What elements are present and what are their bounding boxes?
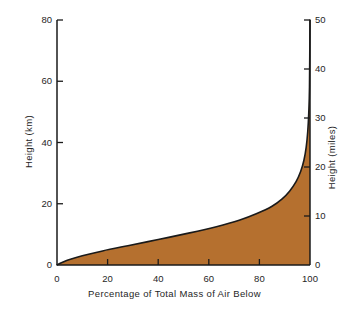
y-right-tick-label: 40	[315, 63, 341, 74]
air-mass-area-fill	[57, 20, 310, 265]
chart-plot-area	[0, 0, 349, 312]
y-left-tick-label: 60	[26, 75, 52, 86]
y-left-tick-label: 20	[26, 198, 52, 209]
x-tick-label: 80	[244, 273, 274, 284]
x-tick-label: 60	[194, 273, 224, 284]
x-tick-label: 40	[143, 273, 173, 284]
x-tick-label: 0	[42, 273, 72, 284]
y-axis-right-title: Height (miles)	[326, 123, 337, 193]
x-tick-label: 100	[295, 273, 325, 284]
y-left-tick-label: 0	[26, 259, 52, 270]
y-axis-left-title: Height (km)	[23, 112, 34, 172]
y-right-tick-label: 30	[315, 112, 341, 123]
y-left-tick-label: 80	[26, 14, 52, 25]
y-right-tick-label: 50	[315, 14, 341, 25]
y-right-tick-label: 0	[315, 259, 341, 270]
y-axis-left-ticks	[57, 20, 63, 204]
chart-figure: 020406080 01020304050 020406080100 Perce…	[0, 0, 349, 312]
x-axis-title: Percentage of Total Mass of Air Below	[0, 288, 349, 299]
x-tick-label: 20	[93, 273, 123, 284]
y-right-tick-label: 10	[315, 210, 341, 221]
